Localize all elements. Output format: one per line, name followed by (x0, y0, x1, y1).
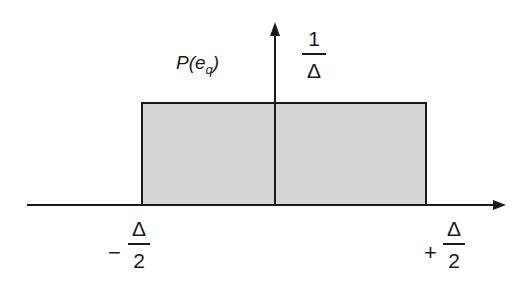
left-bound-denominator: 2 (133, 250, 145, 271)
left-bound-sign: − (108, 240, 121, 266)
pdf-arg: e (195, 52, 206, 73)
x-axis-arrowhead-icon (493, 200, 506, 210)
right-bound-label: Δ 2 (443, 218, 465, 271)
height-denominator: Δ (307, 60, 321, 81)
fraction-bar (302, 53, 326, 55)
y-axis-arrowhead-icon (270, 22, 280, 36)
fraction-bar (128, 243, 150, 245)
left-bound-numerator: Δ (132, 218, 146, 239)
right-bound-numerator: Δ (447, 218, 461, 239)
height-label: 1 Δ (302, 28, 326, 81)
pdf-func: P (176, 52, 189, 73)
uniform-pdf-rectangle (142, 103, 426, 205)
pdf-arg-subscript: q (206, 62, 213, 77)
fraction-bar (443, 243, 465, 245)
height-numerator: 1 (308, 28, 320, 49)
right-bound-sign: + (424, 240, 437, 266)
left-bound-label: Δ 2 (128, 218, 150, 271)
pdf-label: P(eq) (176, 52, 219, 77)
right-bound-denominator: 2 (448, 250, 460, 271)
